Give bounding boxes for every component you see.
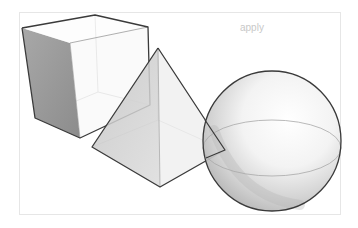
sphere-shape [203, 71, 341, 211]
geometry-figure [0, 0, 358, 228]
